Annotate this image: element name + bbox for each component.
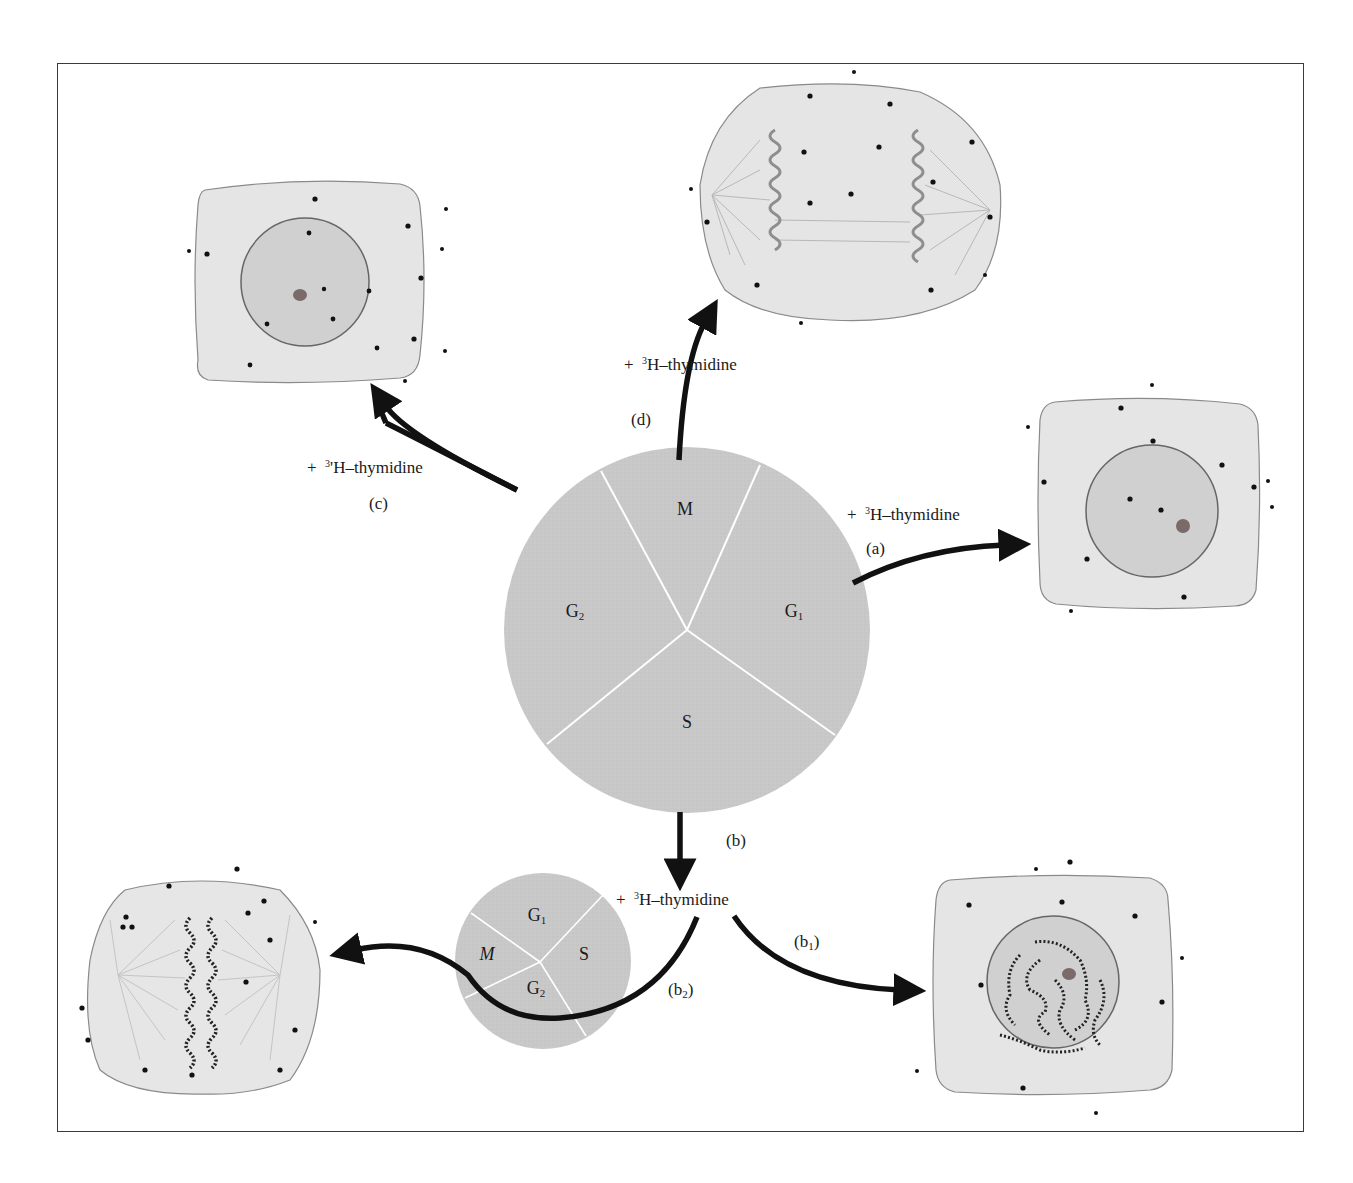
main-phase-m: M [677,500,693,520]
cell-b2-metaphase [79,866,320,1094]
label-b1-tag: (b1) [794,933,819,952]
label-a-tag: (a) [866,540,885,557]
main-phase-s: S [682,713,692,733]
small-phase-g2: G2 [527,979,546,999]
main-phase-g2: G2 [566,602,585,622]
cell-b1-labeled-interphase [915,859,1184,1115]
cell-cycle-diagram [0,0,1353,1183]
label-c-tag: (c) [369,495,388,512]
label-a-reagent: + 3H–thymidine [847,506,960,523]
main-phase-g1: G1 [785,602,804,622]
arrow-b1 [734,916,900,990]
arrow-d [679,322,705,460]
label-b-reagent: + 3H–thymidine [616,891,729,908]
cell-a-interphase [1026,383,1274,613]
cell-d-anaphase [689,70,1001,325]
label-d-reagent: + 3H–thymidine [624,356,737,373]
label-c-reagent: + 3'H–thymidine [307,459,423,476]
label-d-tag: (d) [631,411,651,428]
label-b2-tag: (b2) [668,981,693,1000]
small-phase-g1: G1 [528,906,547,926]
label-b-tag: (b) [726,832,746,849]
small-phase-s: S [579,945,589,965]
cell-c-interphase [187,181,448,383]
arrow-c-head [370,396,395,448]
small-phase-m: M [480,945,495,965]
